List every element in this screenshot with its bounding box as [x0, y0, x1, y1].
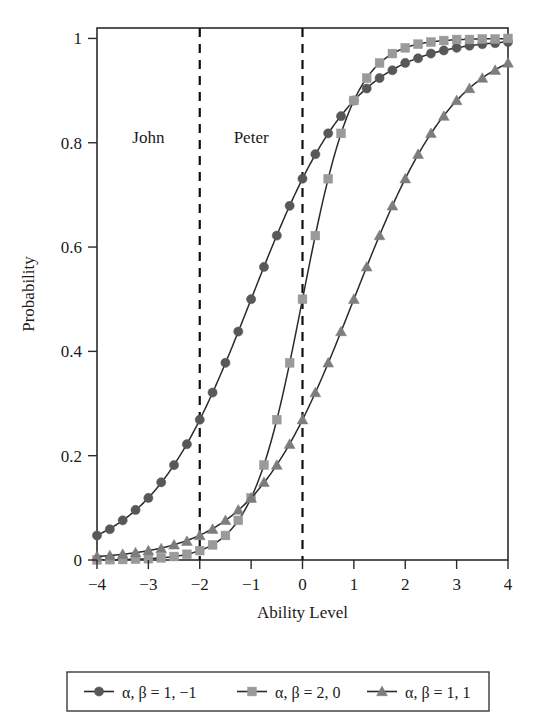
marker-square	[260, 461, 269, 470]
x-tick-label: −2	[191, 575, 209, 594]
y-tick-label: 1	[74, 29, 83, 48]
y-axis-ticks: 00.20.40.60.81	[61, 29, 97, 570]
marker-circle	[362, 84, 371, 93]
x-tick-label: −4	[88, 575, 107, 594]
marker-circle	[105, 525, 114, 534]
item-characteristic-curve-figure: −4−3−2−101234 00.20.40.60.81 JohnPeter A…	[0, 0, 554, 723]
marker-square	[285, 358, 294, 367]
marker-circle	[182, 440, 191, 449]
legend-label: α, β = 1, 1	[405, 684, 471, 702]
marker-triangle	[413, 149, 424, 159]
marker-square	[208, 540, 217, 549]
marker-circle	[336, 112, 345, 121]
y-tick-label: 0	[74, 551, 83, 570]
marker-triangle	[438, 111, 449, 121]
marker-circle	[169, 460, 178, 469]
marker-circle	[195, 415, 204, 424]
marker-triangle	[426, 128, 437, 138]
marker-triangle	[503, 58, 514, 68]
annotation-peter: Peter	[234, 128, 269, 147]
marker-circle	[439, 46, 448, 55]
y-tick-label: 0.4	[61, 342, 83, 361]
marker-triangle	[323, 357, 334, 367]
legend-label: α, β = 1, −1	[122, 684, 197, 702]
annotation-john: John	[132, 128, 165, 147]
axis-titles: Ability LevelProbability	[19, 256, 348, 622]
marker-square	[465, 35, 474, 44]
marker-triangle	[400, 173, 411, 183]
marker-triangle	[271, 460, 282, 470]
legend-entry-1[interactable]: α, β = 2, 0	[237, 684, 341, 702]
marker-circle	[144, 493, 153, 502]
marker-square	[272, 415, 281, 424]
marker-circle	[208, 388, 217, 397]
marker-square	[183, 550, 192, 559]
marker-square	[375, 59, 384, 68]
marker-square	[298, 295, 307, 304]
x-axis-ticks: −4−3−2−101234	[88, 560, 513, 594]
marker-square	[221, 531, 230, 540]
marker-square	[324, 174, 333, 183]
marker-square	[401, 43, 410, 52]
marker-circle	[285, 201, 294, 210]
marker-square	[504, 34, 513, 43]
marker-circle	[92, 531, 101, 540]
marker-triangle	[220, 515, 231, 525]
marker-triangle	[361, 261, 372, 271]
chart-canvas: −4−3−2−101234 00.20.40.60.81 JohnPeter A…	[0, 0, 554, 723]
marker-square	[349, 96, 358, 105]
marker-square	[414, 40, 423, 49]
marker-triangle	[336, 326, 347, 336]
marker-circle	[401, 58, 410, 67]
marker-circle	[388, 66, 397, 75]
marker-square	[491, 35, 500, 44]
marker-circle	[221, 358, 230, 367]
legend-entry-0[interactable]: α, β = 1, −1	[84, 684, 197, 702]
x-axis-title: Ability Level	[257, 603, 348, 622]
x-tick-label: 3	[452, 575, 461, 594]
marker-square	[452, 35, 461, 44]
y-tick-label: 0.6	[61, 238, 82, 257]
y-tick-label: 0.8	[61, 134, 82, 153]
marker-circle	[94, 687, 103, 696]
marker-circle	[259, 262, 268, 271]
marker-circle	[452, 43, 461, 52]
marker-circle	[234, 327, 243, 336]
marker-square	[388, 49, 397, 58]
marker-circle	[311, 150, 320, 159]
marker-circle	[157, 478, 166, 487]
marker-square	[234, 516, 243, 525]
marker-square	[439, 36, 448, 45]
x-tick-label: 0	[298, 575, 307, 594]
marker-square	[337, 129, 346, 138]
marker-square	[248, 687, 257, 696]
marker-circle	[272, 231, 281, 240]
y-tick-label: 0.2	[61, 447, 82, 466]
reference-lines	[200, 28, 303, 560]
marker-square	[478, 35, 487, 44]
marker-triangle	[207, 524, 218, 534]
x-tick-label: −1	[242, 575, 260, 594]
marker-triangle	[297, 414, 308, 424]
legend-entry-2[interactable]: α, β = 1, 1	[367, 684, 471, 702]
legend-label: α, β = 2, 0	[275, 684, 341, 702]
marker-circle	[413, 54, 422, 63]
y-axis-title: Probability	[19, 256, 38, 332]
marker-square	[362, 74, 371, 83]
marker-triangle	[374, 230, 385, 240]
x-tick-label: 4	[504, 575, 513, 594]
marker-square	[170, 552, 179, 561]
x-tick-label: 1	[350, 575, 359, 594]
marker-triangle	[182, 536, 193, 546]
marker-circle	[324, 129, 333, 138]
marker-circle	[247, 295, 256, 304]
marker-square	[311, 231, 320, 240]
marker-triangle	[284, 439, 295, 449]
marker-square	[427, 38, 436, 47]
marker-triangle	[310, 387, 321, 397]
x-tick-label: 2	[401, 575, 410, 594]
marker-square	[195, 546, 204, 555]
marker-triangle	[156, 543, 167, 553]
marker-circle	[426, 49, 435, 58]
marker-triangle	[194, 530, 205, 540]
